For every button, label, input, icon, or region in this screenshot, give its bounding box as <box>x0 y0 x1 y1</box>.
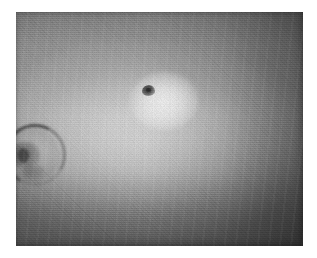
ear-at-left-edge <box>16 124 64 184</box>
page-root <box>0 0 317 258</box>
grayscale-clinical-photograph <box>16 12 303 246</box>
ear-notch-shadow <box>18 148 29 163</box>
central-lesion-speck <box>146 88 151 92</box>
central-lesion-halo <box>130 72 198 130</box>
ear-lobe-shadow <box>20 164 46 182</box>
